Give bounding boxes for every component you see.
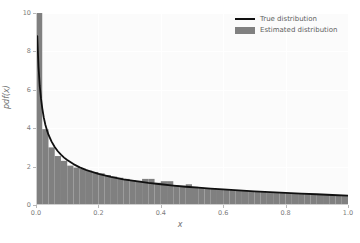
plot-area bbox=[36, 13, 348, 205]
histogram-bar bbox=[173, 185, 179, 205]
histogram-bar bbox=[180, 186, 186, 205]
y-tick-mark bbox=[33, 167, 36, 168]
histogram-bar bbox=[111, 177, 117, 205]
histogram-bar bbox=[192, 187, 198, 205]
histogram-bar bbox=[42, 129, 48, 205]
chart-legend: True distribution Estimated distribution bbox=[232, 13, 340, 36]
x-axis-label: x bbox=[0, 220, 360, 229]
line-swatch-icon bbox=[235, 18, 255, 20]
y-tick-mark bbox=[33, 90, 36, 91]
histogram-bar bbox=[242, 191, 248, 205]
histogram-bar bbox=[48, 147, 54, 205]
legend-item-estimated-distribution: Estimated distribution bbox=[235, 26, 337, 34]
histogram-bar bbox=[86, 170, 92, 205]
histogram-bar bbox=[248, 191, 254, 205]
y-tick-mark bbox=[33, 51, 36, 52]
x-tick-mark bbox=[348, 205, 349, 208]
histogram-bar bbox=[229, 190, 235, 205]
x-tick-mark bbox=[161, 205, 162, 208]
y-tick-label: 10 bbox=[23, 9, 31, 17]
histogram-bar bbox=[254, 192, 260, 205]
x-tick-mark bbox=[223, 205, 224, 208]
histogram-bar bbox=[117, 178, 123, 205]
histogram-bar bbox=[92, 172, 98, 205]
histogram-bar bbox=[105, 175, 111, 205]
y-tick-label: 2 bbox=[27, 163, 31, 171]
histogram-bar bbox=[217, 189, 223, 205]
y-axis-spine bbox=[36, 13, 37, 205]
histogram-bar bbox=[204, 188, 210, 205]
x-tick-label: 0.8 bbox=[280, 209, 290, 217]
legend-label: True distribution bbox=[260, 15, 317, 23]
x-tick-label: 1.0 bbox=[343, 209, 353, 217]
y-tick-mark bbox=[33, 13, 36, 14]
histogram-bar bbox=[155, 183, 161, 205]
histogram-bar bbox=[67, 166, 73, 205]
histogram-bar bbox=[130, 180, 136, 205]
histogram-bar bbox=[55, 156, 61, 205]
y-axis-label: pdf(x) bbox=[2, 85, 11, 109]
x-tick-mark bbox=[36, 205, 37, 208]
y-tick-label: 6 bbox=[27, 86, 31, 94]
histogram-bar bbox=[211, 188, 217, 205]
legend-label: Estimated distribution bbox=[260, 26, 337, 34]
patch-swatch-icon bbox=[235, 27, 255, 34]
y-tick-mark bbox=[33, 128, 36, 129]
chart-canvas bbox=[36, 13, 348, 205]
histogram-bar bbox=[98, 173, 104, 205]
histogram-bar bbox=[123, 179, 129, 205]
histogram-bar bbox=[73, 168, 79, 205]
histogram-bar bbox=[136, 181, 142, 205]
histogram-bar bbox=[80, 169, 86, 205]
x-tick-label: 0.4 bbox=[156, 209, 166, 217]
x-tick-mark bbox=[98, 205, 99, 208]
histogram-bar bbox=[223, 189, 229, 205]
histogram-bars bbox=[36, 13, 348, 205]
x-tick-mark bbox=[286, 205, 287, 208]
histogram-bar bbox=[236, 190, 242, 205]
histogram-bar bbox=[61, 161, 67, 205]
x-tick-label: 0.0 bbox=[31, 209, 41, 217]
y-tick-label: 0 bbox=[27, 201, 31, 209]
histogram-bar bbox=[198, 188, 204, 205]
x-tick-label: 0.6 bbox=[218, 209, 228, 217]
y-tick-label: 4 bbox=[27, 124, 31, 132]
y-tick-label: 8 bbox=[27, 47, 31, 55]
chart-figure: 0246810 0.00.20.40.60.81.0 pdf(x) x True… bbox=[0, 0, 360, 243]
x-axis-spine bbox=[36, 204, 348, 205]
x-tick-label: 0.2 bbox=[93, 209, 103, 217]
legend-item-true-distribution: True distribution bbox=[235, 15, 337, 23]
